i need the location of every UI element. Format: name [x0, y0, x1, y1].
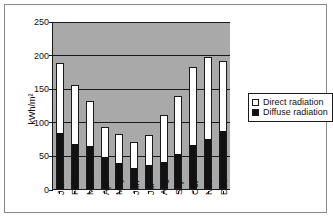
- bar-segment-direct[interactable]: [56, 63, 64, 132]
- x-tick-apr: Apr: [100, 191, 108, 219]
- x-tick-label: Sep: [174, 179, 184, 195]
- bar-may[interactable]: [115, 22, 123, 189]
- y-tick-label-200: 200: [34, 51, 49, 60]
- x-tick-jul: Jul: [144, 191, 152, 219]
- x-tick-label: Aug: [159, 179, 169, 195]
- y-tick-label-250: 250: [34, 18, 49, 27]
- bar-aug[interactable]: [160, 22, 168, 189]
- bar-jul[interactable]: [145, 22, 153, 189]
- bar-jan[interactable]: [56, 22, 64, 189]
- bar-segment-direct[interactable]: [86, 101, 94, 146]
- bar-segment-direct[interactable]: [160, 115, 168, 162]
- x-tick-jun: Jun: [130, 191, 138, 219]
- x-tick-oct: Oct: [189, 191, 197, 219]
- x-tick-sep: Sep: [174, 191, 182, 219]
- x-tick-may: May: [115, 191, 123, 219]
- bar-apr[interactable]: [101, 22, 109, 189]
- legend-label-diffuse: Diffuse radiation: [263, 108, 328, 117]
- x-tick-feb: Feb: [70, 191, 78, 219]
- bar-dec[interactable]: [219, 22, 227, 189]
- bar-segment-direct[interactable]: [174, 96, 182, 154]
- x-tick-label: Jun: [130, 180, 140, 195]
- plot-area: 050100150200250: [52, 22, 230, 190]
- x-tick-jan: Jan: [55, 191, 63, 219]
- x-tick-mar: Mar: [85, 191, 93, 219]
- chart-legend: Direct radiation Diffuse radiation: [248, 93, 333, 122]
- bar-segment-direct[interactable]: [130, 142, 138, 168]
- x-tick-label: May: [114, 178, 124, 195]
- legend-label-direct: Direct radiation: [263, 98, 324, 107]
- bar-nov[interactable]: [204, 22, 212, 189]
- bar-segment-direct[interactable]: [145, 135, 153, 165]
- y-tick-label-100: 100: [34, 118, 49, 127]
- chart-frame: kWh/m² 050100150200250 JanFebMarAprMayJu…: [4, 4, 327, 213]
- x-tick-label: Dec: [219, 179, 229, 195]
- x-tick-nov: Nov: [204, 191, 212, 219]
- bar-feb[interactable]: [71, 22, 79, 189]
- bar-oct[interactable]: [189, 22, 197, 189]
- x-tick-label: Jul: [147, 183, 157, 195]
- x-axis-labels: JanFebMarAprMayJunJulAugSepOctNovDec: [52, 191, 230, 219]
- bar-segment-direct[interactable]: [204, 57, 212, 139]
- bar-sep[interactable]: [174, 22, 182, 189]
- x-tick-label: Nov: [204, 179, 214, 195]
- bar-segment-direct[interactable]: [71, 85, 79, 144]
- bar-jun[interactable]: [130, 22, 138, 189]
- bar-segment-direct[interactable]: [115, 134, 123, 163]
- bar-segment-direct[interactable]: [189, 67, 197, 146]
- bar-series-group: [53, 22, 230, 189]
- x-tick-label: Feb: [70, 179, 80, 195]
- y-tick-label-50: 50: [39, 152, 49, 161]
- white-square-icon: [252, 99, 259, 106]
- x-tick-aug: Aug: [159, 191, 167, 219]
- x-tick-label: Oct: [190, 181, 200, 195]
- legend-item-diffuse: Diffuse radiation: [252, 108, 328, 117]
- bar-segment-direct[interactable]: [101, 127, 109, 157]
- x-tick-label: Jan: [56, 180, 66, 195]
- bar-segment-direct[interactable]: [219, 61, 227, 131]
- x-tick-dec: Dec: [219, 191, 227, 219]
- bar-mar[interactable]: [86, 22, 94, 189]
- black-square-icon: [252, 109, 259, 116]
- x-tick-label: Mar: [85, 180, 95, 196]
- y-tick-label-150: 150: [34, 85, 49, 94]
- legend-item-direct: Direct radiation: [252, 98, 328, 107]
- x-tick-label: Apr: [101, 181, 111, 195]
